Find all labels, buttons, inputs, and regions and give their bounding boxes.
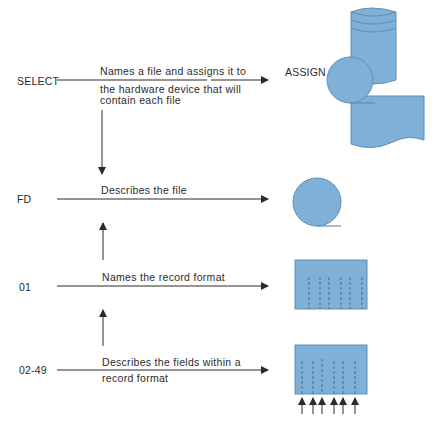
- record-level-01-keyword: 01: [19, 281, 31, 293]
- fields-description-line-1: Describes the fields within a: [102, 357, 241, 368]
- field-pointer-arrows: [302, 398, 355, 414]
- select-description-line-3: contain each file: [100, 95, 181, 106]
- fd-keyword: FD: [17, 193, 31, 205]
- select-keyword: SELECT: [17, 75, 59, 87]
- file-circle-icon: [293, 178, 341, 226]
- record-description: Names the record format: [102, 272, 225, 283]
- storage-devices-icon: [327, 8, 424, 148]
- select-description-line-1: Names a file and assigns it to: [100, 66, 246, 77]
- record-fields-icon: [295, 345, 367, 414]
- field-levels-keyword: 02-49: [19, 364, 47, 376]
- fd-description: Describes the file: [101, 185, 187, 196]
- record-format-icon: [295, 260, 367, 309]
- assign-label: ASSIGN: [285, 66, 326, 78]
- fields-description-line-2: record format: [102, 373, 168, 384]
- cobol-data-division-diagram: SELECT Names a file and assigns it to th…: [0, 0, 435, 426]
